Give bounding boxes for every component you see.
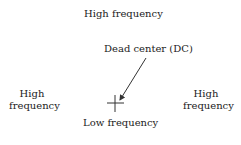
dc-arrow: [120, 58, 146, 100]
diagram-graphics: [0, 0, 241, 145]
